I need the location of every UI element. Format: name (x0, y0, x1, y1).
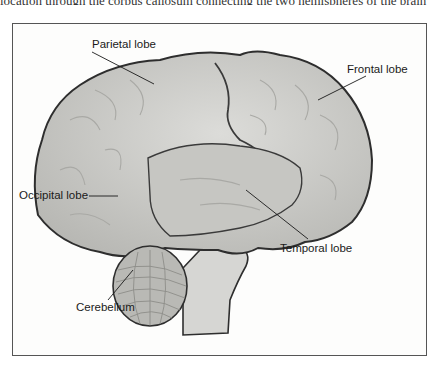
brain-illustration (0, 0, 443, 371)
brainstem (183, 246, 248, 335)
label-frontal-lobe: Frontal lobe (347, 63, 408, 75)
label-cerebellum: Cerebellum (76, 301, 135, 313)
cerebellum-region (113, 246, 187, 326)
label-temporal-lobe: Temporal lobe (280, 242, 352, 254)
label-parietal-lobe: Parietal lobe (92, 38, 156, 50)
label-occipital-lobe: Occipital lobe (19, 189, 88, 201)
